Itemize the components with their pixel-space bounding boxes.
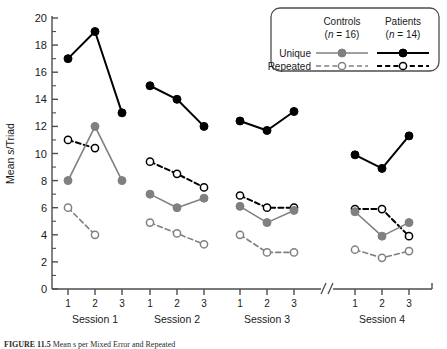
data-point-marker [405,247,412,254]
x-tick-label: 2 [379,298,385,309]
data-point-marker [91,28,99,36]
data-point-marker [200,122,208,130]
x-tick-label: 3 [201,298,207,309]
data-point-marker [200,184,207,191]
data-point-marker [263,204,270,211]
data-point-marker [64,136,71,143]
x-tick-label: 1 [237,298,243,309]
data-point-marker [118,109,126,117]
data-point-marker [64,177,72,185]
x-tick-label: 3 [406,298,412,309]
session-group-label: Session 3 [244,313,290,325]
legend-column-n: (n = 14) [386,29,421,40]
legend-row-label: Unique [279,48,311,59]
x-tick-label: 2 [264,298,270,309]
line-chart: 02468101214161820Mean s/Triad 123Session… [0,0,447,349]
data-point-marker [64,204,71,211]
data-point-marker [173,95,181,103]
y-tick-label: 6 [41,202,47,214]
chart-legend: Controls(n = 16)Patients(n = 14)UniqueRe… [268,8,439,72]
figure-container: 02468101214161820Mean s/Triad 123Session… [0,0,447,349]
data-point-marker [118,177,126,185]
y-axis-title: Mean s/Triad [4,123,16,184]
data-point-marker [146,190,154,198]
x-tick-label: 2 [174,298,180,309]
data-point-marker [263,249,270,256]
data-point-marker [91,144,98,151]
legend-column-header: Controls [323,16,360,27]
legend-sample-marker [399,49,407,57]
data-point-marker [200,194,208,202]
data-point-marker [236,231,243,238]
legend-sample-marker [338,62,345,69]
data-point-marker [173,204,181,212]
data-point-marker [236,202,244,210]
x-tick-label: 1 [352,298,358,309]
data-point-marker [200,241,207,248]
y-tick-label: 10 [35,148,47,160]
legend-row-label: Repeated [268,61,311,72]
y-tick-label: 2 [41,256,47,268]
data-point-marker [378,254,385,261]
data-point-marker [378,205,385,212]
data-point-marker [378,232,386,240]
data-point-marker [290,107,298,115]
data-point-marker [91,231,98,238]
y-tick-label: 18 [35,39,47,51]
y-tick-label: 14 [35,93,47,105]
x-tick-label: 2 [92,298,98,309]
data-point-marker [173,230,180,237]
session-group-label: Session 4 [359,313,405,325]
data-point-marker [351,208,359,216]
data-point-marker [405,219,413,227]
data-point-marker [91,122,99,130]
x-tick-label: 1 [65,298,71,309]
data-point-marker [236,117,244,125]
data-point-marker [405,132,413,140]
y-tick-label: 0 [41,283,47,295]
data-point-marker [351,246,358,253]
data-point-marker [64,55,72,63]
data-point-marker [290,249,297,256]
y-tick-label: 12 [35,120,47,132]
data-point-marker [405,233,412,240]
y-tick-label: 16 [35,66,47,78]
legend-column-header: Patients [385,16,421,27]
legend-column-n: (n = 16) [325,29,360,40]
session-group-label: Session 2 [154,313,200,325]
data-point-marker [173,170,180,177]
caption-text: FIGURE 11.5 Mean s per Mixed Error and R… [4,340,175,349]
x-tick-label: 1 [147,298,153,309]
x-tick-label: 3 [119,298,125,309]
data-point-marker [146,82,154,90]
session-group-label: Session 1 [72,313,118,325]
data-point-marker [146,219,153,226]
legend-sample-marker [399,62,406,69]
data-point-marker [263,219,271,227]
x-tick-label: 3 [291,298,297,309]
data-point-marker [351,151,359,159]
data-point-marker [236,192,243,199]
figure-caption: FIGURE 11.5 Mean s per Mixed Error and R… [4,340,175,349]
data-point-marker [290,206,298,214]
data-point-marker [378,164,386,172]
y-tick-label: 20 [35,12,47,24]
y-tick-label: 4 [41,229,47,241]
legend-sample-marker [338,49,346,57]
data-point-marker [146,158,153,165]
data-point-marker [263,126,271,134]
y-tick-label: 8 [41,175,47,187]
